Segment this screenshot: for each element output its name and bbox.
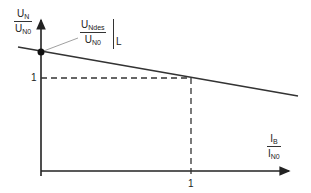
annotation-leader [41, 38, 78, 52]
evaluation-bar [113, 19, 114, 49]
characteristic-line [18, 47, 298, 96]
annotation-num-sub: Ndes [88, 24, 104, 31]
annotation-den: U [85, 34, 92, 45]
x-label-num-sub: B [273, 138, 278, 145]
evaluation-subscript: L [116, 36, 122, 47]
y-label-num-sub: N [24, 13, 29, 20]
intercept-dot [38, 49, 45, 56]
annotation-fraction: UNdes UN0 [80, 19, 106, 45]
diagram-canvas [0, 0, 311, 193]
y-axis-label: UN UN0 [14, 8, 32, 34]
y-label-den-sub: N0 [22, 28, 31, 35]
annotation-den-sub: N0 [92, 39, 101, 46]
x-axis-label: IB IN0 [267, 133, 281, 159]
x-tick-label: 1 [188, 178, 194, 189]
x-label-den-sub: N0 [271, 153, 280, 160]
y-tick-label: 1 [31, 72, 37, 83]
